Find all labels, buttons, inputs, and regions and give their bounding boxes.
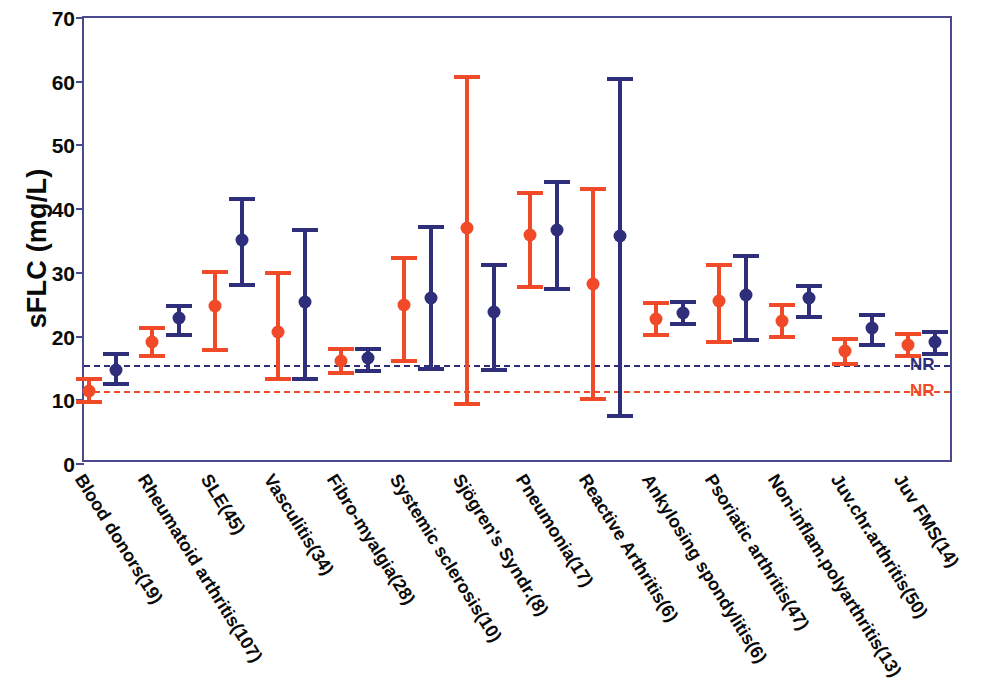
y-axis-tick-label: 20 — [52, 326, 75, 347]
data-point-marker — [425, 291, 438, 304]
x-axis-label: Rheumatoid arthritis(107) — [134, 471, 265, 665]
data-point-marker — [713, 294, 726, 307]
error-bar-cap-upper — [229, 197, 255, 201]
error-bar-cap-lower — [103, 382, 129, 386]
x-axis-label: Ankylosing spondylitis(6) — [638, 471, 769, 666]
error-bar — [607, 77, 633, 418]
error-bar-cap-upper — [454, 75, 480, 79]
x-axis-label: Non-inflam.polyarthritis(13) — [764, 471, 904, 680]
data-point-marker — [614, 229, 627, 242]
data-point-marker — [110, 363, 123, 376]
error-bar-cap-upper — [733, 254, 759, 258]
error-bar — [103, 352, 129, 386]
data-point-marker — [866, 321, 879, 334]
error-bar — [544, 180, 570, 291]
y-axis-tick-label: 10 — [52, 390, 75, 411]
plot-area: 010203040506070 NRNR — [82, 16, 952, 462]
error-bar-cap-upper — [481, 263, 507, 267]
data-point-marker — [902, 339, 915, 352]
error-bar-cap-lower — [544, 287, 570, 291]
error-bar — [580, 187, 606, 401]
y-axis-tick — [76, 336, 84, 338]
error-bar-stem — [618, 79, 622, 416]
data-point-marker — [677, 306, 690, 319]
error-bar-cap-upper — [292, 228, 318, 232]
data-point-marker — [83, 384, 96, 397]
y-axis-tick — [76, 208, 84, 210]
error-bar — [859, 313, 885, 347]
error-bar — [670, 300, 696, 326]
error-bar-cap-upper — [895, 332, 921, 336]
data-point-marker — [362, 351, 375, 364]
error-bar — [706, 263, 732, 344]
data-point-marker — [839, 344, 852, 357]
error-bar — [76, 377, 102, 403]
data-point-marker — [398, 298, 411, 311]
data-point-marker — [587, 277, 600, 290]
data-point-marker — [146, 335, 159, 348]
error-bar — [769, 303, 795, 339]
error-bar — [796, 284, 822, 320]
y-axis-tick — [76, 463, 84, 465]
error-bar-cap-upper — [202, 270, 228, 274]
error-bar-cap-upper — [166, 304, 192, 308]
x-axis-label: Systemic sclerosis(10) — [386, 471, 504, 645]
data-point-marker — [335, 354, 348, 367]
error-bar-cap-lower — [832, 362, 858, 366]
error-bar — [922, 330, 948, 356]
error-bar-cap-upper — [265, 271, 291, 275]
error-bar — [355, 347, 381, 373]
error-bar — [481, 263, 507, 373]
x-axis-label: Vasculitis(34) — [260, 471, 336, 578]
data-point-marker — [173, 312, 186, 325]
error-bar — [166, 304, 192, 337]
error-bar-cap-lower — [292, 377, 318, 381]
error-bar-cap-lower — [796, 315, 822, 319]
y-axis-tick — [76, 272, 84, 274]
reference-line-orange — [84, 391, 950, 393]
error-bar — [229, 197, 255, 287]
data-point-marker — [740, 289, 753, 302]
error-bar-cap-lower — [517, 285, 543, 289]
data-point-marker — [236, 234, 249, 247]
error-bar — [328, 347, 354, 375]
data-point-marker — [650, 312, 663, 325]
y-axis-tick — [76, 17, 84, 19]
data-point-marker — [776, 315, 789, 328]
error-bar — [202, 270, 228, 352]
error-bar-cap-lower — [418, 367, 444, 371]
y-axis-title: sFLC (mg/L) — [22, 124, 53, 374]
data-point-marker — [209, 299, 222, 312]
error-bar-cap-lower — [76, 400, 102, 404]
error-bar-stem — [591, 189, 595, 399]
error-bar-cap-upper — [103, 352, 129, 356]
error-bar-cap-lower — [229, 283, 255, 287]
data-point-marker — [803, 291, 816, 304]
error-bar-cap-upper — [643, 301, 669, 305]
error-bar-cap-lower — [202, 348, 228, 352]
y-axis-tick-label: 0 — [63, 454, 75, 475]
error-bar-cap-lower — [139, 354, 165, 358]
data-point-marker — [929, 336, 942, 349]
y-axis-tick-label: 70 — [52, 8, 75, 29]
error-bar-cap-upper — [391, 256, 417, 260]
data-point-marker — [551, 224, 564, 237]
error-bar-cap-lower — [481, 368, 507, 372]
error-bar-cap-upper — [328, 347, 354, 351]
error-bar — [391, 256, 417, 363]
y-axis-tick-label: 30 — [52, 262, 75, 283]
y-axis-tick-label: 60 — [52, 71, 75, 92]
error-bar-cap-lower — [706, 340, 732, 344]
error-bar-cap-lower — [166, 333, 192, 337]
error-bar-cap-lower — [265, 377, 291, 381]
error-bar — [292, 228, 318, 381]
y-axis-tick — [76, 81, 84, 83]
error-bar — [517, 191, 543, 290]
error-bar-cap-lower — [859, 343, 885, 347]
error-bar — [895, 332, 921, 358]
error-bar-cap-lower — [355, 369, 381, 373]
x-axis-label: Juv FMS(14) — [890, 471, 961, 570]
data-point-marker — [272, 326, 285, 339]
error-bar — [643, 301, 669, 336]
error-bar-cap-lower — [607, 414, 633, 418]
